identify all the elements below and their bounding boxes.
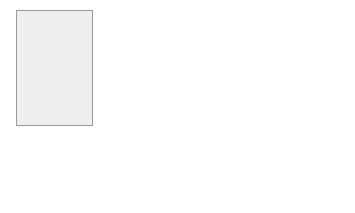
train-panel-u	[16, 10, 93, 126]
